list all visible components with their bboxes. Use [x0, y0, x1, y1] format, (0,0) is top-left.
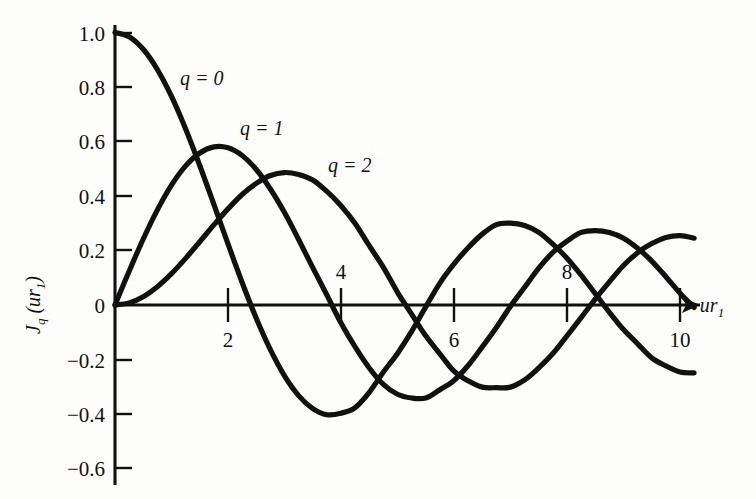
x-axis-title: ur1 [700, 294, 724, 320]
y-tick-label-minus-0-2: −0.2 [67, 349, 105, 373]
y-tick-label-0-8: 0.8 [79, 76, 105, 100]
y-tick-label-minus-0-4: −0.4 [67, 403, 106, 427]
curves-group [115, 33, 694, 415]
curve-label-q1: q = 1 [240, 117, 284, 140]
y-tick-label-0: 0 [95, 294, 106, 318]
x-tick-label-4: 4 [336, 260, 347, 284]
curve-q2 [115, 173, 694, 388]
x-tick-label-6: 6 [449, 328, 460, 352]
plot-canvas: 1.0 0.8 0.6 0.4 0.2 0 −0.2 −0.4 −0.6 2 4… [0, 0, 756, 499]
y-tick-marks [115, 33, 132, 468]
y-tick-label-0-2: 0.2 [79, 239, 105, 263]
y-axis-title: Jq (ur1) [22, 276, 48, 334]
x-tick-label-10: 10 [670, 328, 691, 352]
curve-q1 [115, 146, 694, 398]
y-tick-label-0-6: 0.6 [79, 130, 105, 154]
curve-label-q0: q = 0 [180, 67, 224, 90]
y-tick-label-minus-0-6: −0.6 [67, 457, 105, 481]
y-tick-label-0-4: 0.4 [79, 185, 106, 209]
curve-q0 [115, 33, 694, 415]
x-tick-label-2: 2 [223, 328, 234, 352]
y-tick-label-1-0: 1.0 [79, 22, 105, 46]
bessel-function-figure: 1.0 0.8 0.6 0.4 0.2 0 −0.2 −0.4 −0.6 2 4… [0, 0, 756, 499]
curve-label-q2: q = 2 [328, 154, 372, 177]
axes-group [115, 25, 700, 485]
